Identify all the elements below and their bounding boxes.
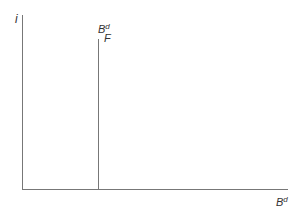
x-axis-label: Bd xyxy=(276,197,288,209)
bond-supply-curve xyxy=(98,39,99,190)
diagram: i Bd F Bd xyxy=(0,0,308,219)
x-axis xyxy=(22,189,288,190)
curve-label-sub: F xyxy=(104,33,111,44)
x-axis-label-sup: d xyxy=(283,195,287,204)
y-axis-label: i xyxy=(15,14,18,25)
curve-label-sup: d xyxy=(105,22,109,31)
y-axis xyxy=(22,15,23,190)
